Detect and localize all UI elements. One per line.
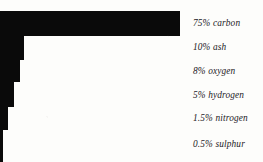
label-hydrogen: 5% hydrogen: [193, 90, 263, 100]
label-nitrogen: 1.5% nitrogen: [193, 113, 263, 123]
bar-chart-figure: 75% carbon 10% ash 8% oxygen 5% hydrogen…: [0, 0, 263, 162]
chart-plot-area: [0, 0, 185, 162]
chart-label-column: 75% carbon 10% ash 8% oxygen 5% hydrogen…: [193, 0, 263, 162]
bar-nitrogen: [0, 107, 8, 130]
label-carbon: 75% carbon: [193, 18, 263, 28]
label-ash: 10% ash: [193, 42, 263, 52]
bar-carbon: [0, 11, 180, 36]
bar-oxygen: [0, 60, 20, 82]
label-oxygen: 8% oxygen: [193, 66, 263, 76]
label-sulphur: 0.5% sulphur: [193, 139, 263, 149]
bar-sulphur: [0, 130, 3, 162]
bar-hydrogen: [0, 82, 14, 107]
bar-ash: [0, 36, 24, 60]
